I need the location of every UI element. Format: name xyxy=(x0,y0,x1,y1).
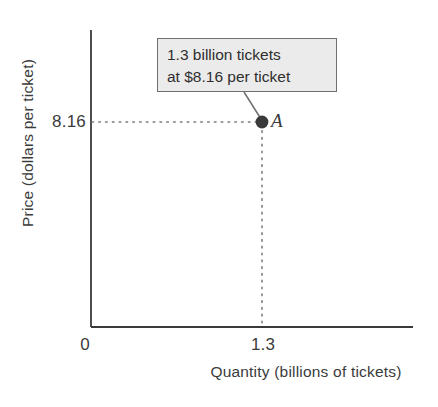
y-axis-title: Price (dollars per ticket) xyxy=(19,59,37,227)
data-point-a xyxy=(256,116,269,129)
callout-leader-line xyxy=(244,92,261,119)
callout-line-2: at $8.16 per ticket xyxy=(167,66,328,88)
callout-annotation-box: 1.3 billion tickets at $8.16 per ticket xyxy=(157,38,337,92)
y-axis-tick-label: 8.16 xyxy=(52,112,86,132)
x-axis-title: Quantity (billions of tickets) xyxy=(210,363,401,381)
callout-line-1: 1.3 billion tickets xyxy=(167,44,328,66)
chart-figure: Price (dollars per ticket) 8.16 0 1.3 Qu… xyxy=(0,0,438,407)
x-axis-tick-label: 1.3 xyxy=(251,335,275,355)
origin-label: 0 xyxy=(80,335,90,355)
data-point-label-a: A xyxy=(271,110,283,132)
